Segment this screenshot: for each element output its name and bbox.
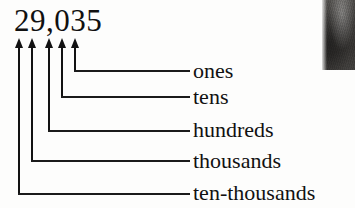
arrow-shaft <box>18 44 20 193</box>
connector-hundreds <box>48 130 190 132</box>
connector-thousands <box>31 160 190 162</box>
arrow-shaft <box>31 44 33 160</box>
label-hundreds: hundreds <box>193 119 274 141</box>
arrow-shaft <box>61 44 63 96</box>
label-ones: ones <box>193 60 233 82</box>
connector-ones <box>74 70 190 72</box>
connector-tens <box>61 96 190 98</box>
scan-artifact-smudge <box>322 0 355 70</box>
label-ten-thousands: ten-thousands <box>193 182 315 204</box>
label-thousands: thousands <box>193 150 281 172</box>
number-value: 29,035 <box>14 2 102 40</box>
label-tens: tens <box>193 86 228 108</box>
place-value-diagram: 29,035 onestenshundredsthousandsten-thou… <box>0 0 355 208</box>
connector-ten-thousands <box>18 193 190 195</box>
arrow-shaft <box>74 44 76 70</box>
scan-artifact-edge <box>322 0 327 70</box>
arrow-shaft <box>48 44 50 130</box>
